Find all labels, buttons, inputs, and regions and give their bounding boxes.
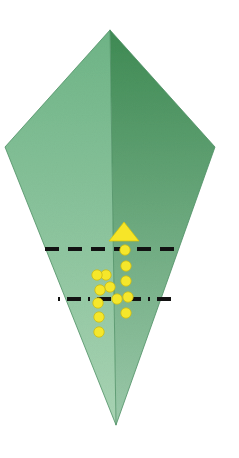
face-pole-marker	[93, 298, 103, 308]
face-pole-marker	[121, 261, 131, 271]
face-pole-marker	[120, 245, 130, 255]
crystal-figure-panel: Kite-shaped crystal form with symmetry e…	[0, 0, 239, 458]
face-pole-marker	[94, 327, 104, 337]
face-pole-marker	[95, 285, 105, 295]
face-pole-marker	[121, 276, 131, 286]
crystal-left-face	[5, 30, 116, 425]
crystal-diagram-svg	[0, 0, 239, 458]
face-pole-marker	[92, 270, 102, 280]
face-pole-marker	[121, 308, 131, 318]
face-pole-marker	[94, 312, 104, 322]
face-pole-marker	[105, 282, 115, 292]
face-pole-marker	[123, 292, 133, 302]
face-pole-marker	[112, 294, 122, 304]
